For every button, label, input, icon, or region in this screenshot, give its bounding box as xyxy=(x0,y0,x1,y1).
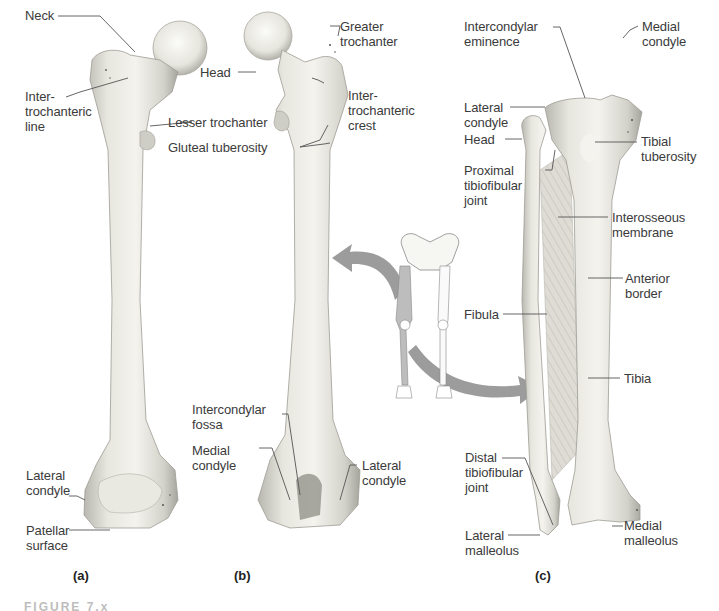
label-tibial-tuberosity: Tibial tuberosity xyxy=(641,134,696,164)
label-fibula: Fibula xyxy=(464,307,499,322)
label-anterior-border: Anterior border xyxy=(625,271,670,301)
label-medial-malleolus: Medial malleolus xyxy=(624,518,678,548)
tibia-fibula xyxy=(522,95,642,535)
figure-caption-partial: FIGURE 7.x xyxy=(24,600,284,611)
label-gluteal-tuberosity: Gluteal tuberosity xyxy=(168,140,267,155)
femur-posterior xyxy=(244,12,360,528)
arrow-to-tibia-icon xyxy=(408,345,542,404)
panel-marker-a: (a) xyxy=(73,568,89,583)
label-head-fibula: Head xyxy=(464,132,495,147)
label-medial-condyle-c: Medial condyle xyxy=(642,19,686,49)
label-lesser-trochanter: Lesser trochanter xyxy=(168,115,267,130)
label-intertrochanteric-line: Inter- trochanteric line xyxy=(25,89,92,134)
label-intertrochanteric-crest: Inter- trochanteric crest xyxy=(348,88,415,133)
label-intercondylar-fossa: Intercondylar fossa xyxy=(192,402,266,432)
arrow-to-femur-icon xyxy=(332,244,405,300)
label-intercondylar-eminence: Intercondylar eminence xyxy=(464,19,538,49)
femur-anterior xyxy=(84,21,207,528)
label-head-femur: Head xyxy=(200,65,231,80)
label-neck: Neck xyxy=(25,8,54,23)
label-proximal-tibiofibular-joint: Proximal tibiofibular joint xyxy=(464,163,522,208)
label-lateral-condyle-b: Lateral condyle xyxy=(362,458,406,488)
panel-marker-b: (b) xyxy=(234,568,251,583)
label-greater-trochanter: Greater trochanter xyxy=(340,19,398,49)
label-distal-tibiofibular-joint: Distal tibiofibular joint xyxy=(465,450,523,495)
orientation-inset xyxy=(332,234,542,404)
label-interosseous-membrane: Interosseous membrane xyxy=(612,210,685,240)
label-lateral-malleolus: Lateral malleolus xyxy=(465,528,519,558)
label-medial-condyle-b: Medial condyle xyxy=(192,443,236,473)
label-tibia: Tibia xyxy=(624,371,651,386)
label-lateral-condyle-a: Lateral condyle xyxy=(26,468,70,498)
bone-figure: Neck Inter- trochanteric line Lateral co… xyxy=(0,0,719,611)
label-lateral-condyle-c: Lateral condyle xyxy=(464,100,508,130)
label-patellar-surface: Patellar surface xyxy=(26,523,69,553)
panel-marker-c: (c) xyxy=(535,568,551,583)
